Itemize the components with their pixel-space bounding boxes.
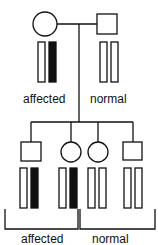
affected-bracket [5,209,78,229]
son-affected-symbol [21,142,41,161]
child-4-chromosome-1 [124,168,131,208]
mother-symbol [33,12,57,36]
daughter-normal-symbol [88,142,108,162]
son-normal-symbol [123,142,142,160]
father-chromosome-2 [111,42,118,82]
father-symbol [97,14,117,34]
child-2-chromosome-2 [70,168,77,208]
mother-chromosome-2 [49,42,56,82]
daughter-affected-symbol [61,142,81,162]
father-chromosome-1 [100,42,107,82]
normal-bracket [80,209,155,229]
child-2-chromosome-1 [59,168,66,208]
mother-chromosome-1 [38,42,45,82]
children-affected-label: affected [21,233,63,245]
child-3-chromosome-2 [99,168,106,208]
parent-affected-label: affected [23,93,65,105]
pedigree-diagram [0,0,158,245]
children-normal-label: normal [92,233,129,245]
child-4-chromosome-2 [135,168,142,208]
child-1-chromosome-1 [20,168,27,208]
child-1-chromosome-2 [31,168,38,208]
parent-normal-label: normal [90,93,127,105]
child-3-chromosome-1 [88,168,95,208]
